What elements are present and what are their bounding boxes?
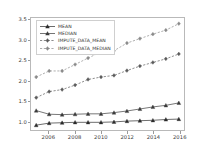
legend-label: IMPUTE_DATA_MEDIAN [56, 45, 111, 52]
data-point-marker [151, 61, 154, 65]
y-tick-mark [28, 60, 31, 61]
data-point-marker [177, 22, 180, 26]
data-point-marker [35, 75, 38, 79]
x-tick-mark [127, 131, 128, 134]
data-point-marker [125, 41, 128, 45]
x-tick-label: 2006 [42, 134, 56, 140]
legend-sample-line [39, 37, 56, 44]
data-point-marker [61, 88, 64, 92]
y-tick-mark [28, 122, 31, 123]
legend-item-impute-data-median[interactable]: IMPUTE_DATA_MEDIAN [39, 45, 111, 52]
x-tick-label: 2012 [120, 134, 134, 140]
y-tick-label: 2.5 [18, 57, 27, 63]
x-tick-label: 2010 [94, 134, 108, 140]
data-point-marker [46, 46, 49, 50]
y-tick-mark [28, 19, 31, 20]
data-point-marker [35, 96, 38, 100]
data-point-marker [138, 37, 141, 41]
data-point-marker [73, 83, 76, 87]
x-tick-mark [153, 131, 154, 134]
legend: MEANMEDIANIMPUTE_DATA_MEANIMPUTE_DATA_ME… [36, 20, 115, 55]
data-point-marker [86, 78, 89, 82]
data-point-marker [112, 74, 115, 78]
y-tick-mark [28, 101, 31, 102]
data-point-marker [73, 63, 76, 67]
y-tick-label: 1.0 [18, 119, 27, 125]
data-point-marker [177, 101, 181, 104]
data-point-marker [151, 32, 154, 36]
series-median [34, 101, 180, 116]
figure: 1.01.52.02.53.03.5 MEANMEDIANIMPUTE_DATA… [0, 0, 198, 155]
x-tick-mark [75, 131, 76, 134]
x-tick-mark [48, 131, 49, 134]
series-mean [34, 117, 180, 127]
y-axis-tick-labels: 1.01.52.02.53.03.5 [0, 0, 27, 155]
y-tick-label: 2.0 [18, 78, 27, 84]
y-tick-label: 3.0 [18, 37, 27, 43]
data-point-marker [34, 109, 38, 112]
data-point-marker [99, 75, 102, 79]
data-point-marker [48, 69, 51, 73]
legend-item-impute-data-mean[interactable]: IMPUTE_DATA_MEAN [39, 37, 111, 44]
x-tick-mark [180, 131, 181, 134]
legend-sample-line [39, 45, 56, 52]
data-point-marker [164, 57, 167, 61]
data-point-marker [48, 90, 51, 94]
y-tick-label: 3.5 [18, 16, 27, 22]
x-tick-mark [101, 131, 102, 134]
x-tick-label: 2008 [68, 134, 82, 140]
series-line [36, 54, 179, 98]
y-tick-mark [28, 40, 31, 41]
data-point-marker [46, 39, 49, 43]
series-line [36, 103, 179, 115]
legend-sample-line [39, 23, 56, 30]
series-line [36, 119, 179, 125]
y-tick-mark [28, 81, 31, 82]
y-tick-label: 1.5 [18, 98, 27, 104]
series-impute-data-mean [35, 52, 181, 99]
legend-label: IMPUTE_DATA_MEAN [56, 37, 106, 44]
legend-item-median[interactable]: MEDIAN [39, 30, 111, 37]
x-tick-label: 2016 [173, 134, 187, 140]
data-point-marker [61, 69, 64, 73]
legend-label: MEAN [56, 23, 72, 30]
data-point-marker [138, 64, 141, 68]
data-point-marker [125, 69, 128, 73]
legend-label: MEDIAN [56, 30, 77, 37]
data-point-marker [86, 56, 89, 60]
x-tick-label: 2014 [147, 134, 161, 140]
data-point-marker [164, 28, 167, 32]
legend-item-mean[interactable]: MEAN [39, 23, 111, 30]
legend-sample-line [39, 30, 56, 37]
data-point-marker [177, 52, 180, 56]
